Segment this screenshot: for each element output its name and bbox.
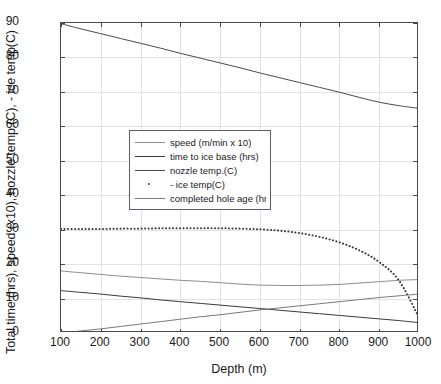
x-tick — [379, 329, 380, 332]
y-tick-right — [413, 264, 417, 265]
y-tick — [61, 299, 65, 300]
y-tick — [61, 126, 65, 127]
y-tick — [61, 57, 65, 58]
y-tick-label: 40 — [0, 186, 19, 200]
legend-line-icon — [135, 170, 165, 171]
x-tick-top — [260, 23, 261, 27]
y-tick-label: 80 — [0, 48, 19, 62]
legend-line-icon — [135, 156, 165, 157]
legend-item-label: - ice temp(C) — [170, 179, 225, 190]
legend-item-label: speed (m/min x 10) — [170, 137, 251, 148]
legend-item[interactable]: - ice temp(C) — [133, 177, 266, 191]
series-line — [61, 294, 418, 332]
y-tick-right — [413, 195, 417, 196]
y-tick-label: 0 — [0, 324, 19, 338]
legend-item-label: time to ice base (hrs) — [170, 151, 259, 162]
y-tick-label: 60 — [0, 117, 19, 131]
x-tick-top — [339, 23, 340, 27]
x-tick — [180, 329, 181, 332]
legend-swatch-icon — [133, 164, 167, 176]
y-tick — [61, 23, 65, 24]
x-tick — [220, 329, 221, 332]
y-tick-right — [413, 92, 417, 93]
x-tick — [339, 329, 340, 332]
series-line — [61, 24, 418, 109]
y-tick-label: 50 — [0, 152, 19, 166]
legend-item[interactable]: speed (m/min x 10) — [133, 135, 266, 149]
y-tick-label: 30 — [0, 221, 19, 235]
legend-item[interactable]: nozzle temp.(C) — [133, 163, 266, 177]
legend-dot-icon — [148, 183, 150, 185]
legend-item[interactable]: time to ice base (hrs) — [133, 149, 266, 163]
y-tick-right — [413, 230, 417, 231]
x-tick-top — [101, 23, 102, 27]
legend-item-label: completed hole age (hrs) — [170, 193, 266, 204]
legend-line-icon — [135, 142, 165, 143]
x-tick-top — [180, 23, 181, 27]
legend: speed (m/min x 10)time to ice base (hrs)… — [129, 130, 271, 210]
y-tick-label: 20 — [0, 255, 19, 269]
y-tick — [61, 230, 65, 231]
y-tick — [61, 264, 65, 265]
y-tick-label: 90 — [0, 14, 19, 28]
plot-area: speed (m/min x 10)time to ice base (hrs)… — [60, 22, 418, 332]
x-tick — [101, 329, 102, 332]
x-tick — [300, 329, 301, 332]
x-tick-top — [300, 23, 301, 27]
x-tick — [141, 329, 142, 332]
legend-item-label: nozzle temp.(C) — [170, 165, 237, 176]
series-line — [61, 228, 418, 317]
legend-item[interactable]: completed hole age (hrs) — [133, 191, 266, 205]
series-line — [61, 271, 418, 286]
series-line — [61, 291, 418, 323]
x-tick-label: 1000 — [388, 335, 441, 349]
y-tick-right — [413, 161, 417, 162]
y-tick-right — [413, 57, 417, 58]
x-tick — [260, 329, 261, 332]
figure: Total time (hrs), speed (x10), nozzle te… — [0, 0, 441, 384]
y-tick-right — [413, 23, 417, 24]
y-tick-label: 10 — [0, 290, 19, 304]
x-tick — [61, 329, 62, 332]
x-tick-top — [379, 23, 380, 27]
legend-swatch-icon — [133, 136, 167, 148]
y-tick — [61, 161, 65, 162]
legend-swatch-icon — [133, 192, 167, 204]
legend-swatch-icon — [133, 178, 167, 190]
y-tick — [61, 195, 65, 196]
y-tick-label: 70 — [0, 83, 19, 97]
legend-swatch-icon — [133, 150, 167, 162]
legend-line-icon — [135, 198, 165, 199]
x-tick-top — [141, 23, 142, 27]
x-tick-top — [220, 23, 221, 27]
y-tick — [61, 92, 65, 93]
y-tick-right — [413, 126, 417, 127]
y-tick-right — [413, 299, 417, 300]
x-axis-label: Depth (m) — [60, 362, 418, 376]
